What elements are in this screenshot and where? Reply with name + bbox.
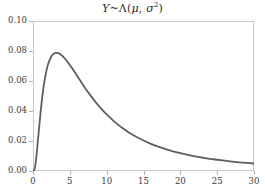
x-tick-label: 5 bbox=[60, 176, 80, 186]
x-tick-label: 0 bbox=[23, 176, 43, 186]
y-tick-label: 0.10 bbox=[0, 15, 27, 25]
x-tick-label: 20 bbox=[170, 176, 190, 186]
chart-title: Y~Λ(μ, σ2) bbox=[0, 1, 265, 15]
x-tick-label: 30 bbox=[244, 176, 264, 186]
x-tick-mark bbox=[254, 171, 255, 175]
y-tick-label: 0.06 bbox=[0, 75, 27, 85]
chart-page: Y~Λ(μ, σ2) 0.000.020.040.060.080.10 0510… bbox=[0, 0, 265, 196]
y-tick-label: 0.00 bbox=[0, 165, 27, 175]
title-tilde: ~ bbox=[109, 2, 118, 15]
plot-area bbox=[33, 21, 254, 171]
y-tick-label: 0.02 bbox=[0, 135, 27, 145]
x-tick-mark bbox=[33, 171, 34, 175]
lognormal-curve bbox=[33, 53, 254, 171]
y-tick-mark bbox=[29, 171, 33, 172]
x-tick-label: 15 bbox=[134, 176, 154, 186]
y-tick-label: 0.04 bbox=[0, 105, 27, 115]
x-tick-label: 25 bbox=[207, 176, 227, 186]
y-tick-label: 0.08 bbox=[0, 45, 27, 55]
x-tick-mark bbox=[217, 171, 218, 175]
x-tick-mark bbox=[180, 171, 181, 175]
title-distribution-symbol: Λ bbox=[119, 2, 127, 15]
title-mu: μ bbox=[131, 2, 138, 15]
x-tick-mark bbox=[107, 171, 108, 175]
x-tick-mark bbox=[70, 171, 71, 175]
x-tick-label: 10 bbox=[97, 176, 117, 186]
title-sigma: σ bbox=[146, 2, 154, 15]
title-close-paren: ) bbox=[159, 2, 164, 15]
x-tick-mark bbox=[144, 171, 145, 175]
